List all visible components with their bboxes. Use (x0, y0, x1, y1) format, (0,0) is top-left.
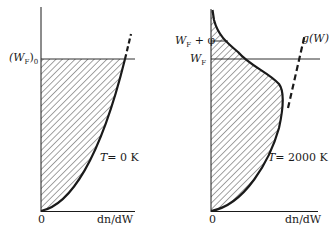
origin-label-left: 0 (38, 214, 45, 225)
left-panel (41, 7, 141, 220)
g-w-label: g(W) (302, 33, 329, 44)
electron-distribution-diagram (0, 0, 334, 230)
temperature-label-left: T= 0 K (100, 152, 139, 163)
x-axis-label-right: dn/dW (285, 214, 321, 225)
density-of-states-dashed (125, 34, 131, 59)
x-axis-label-left: dn/dW (97, 214, 133, 225)
fermi-level-label-left: (WF)0 (9, 52, 38, 66)
origin-label-right: 0 (209, 214, 216, 225)
occupied-states-fill (41, 40, 141, 220)
work-function-level-label: WF + φ (175, 35, 215, 49)
g-w-dashed-curve (288, 34, 305, 108)
temperature-label-right: T= 2000 K (268, 152, 328, 163)
fermi-level-label-right: WF (190, 53, 206, 67)
